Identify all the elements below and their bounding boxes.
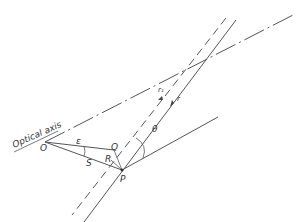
label-R: R [105,154,111,164]
epsilon-arc [84,146,85,156]
label-O: O [40,143,47,153]
label-r: r [177,95,181,103]
optics-diagram: Optical axis O ε Q S R P θ r r₁ [0,0,304,222]
label-Q: Q [111,142,118,152]
ray-r-line [84,20,236,222]
ray-r1-dashed-line [72,18,226,215]
point-P [121,169,124,172]
label-r1: r₁ [158,86,164,94]
label-P: P [120,174,126,184]
optical-axis-label: Optical axis [11,119,63,150]
label-S: S [86,158,92,168]
arrow-r1-icon [158,96,163,100]
surface-line [122,117,218,170]
label-theta: θ [152,124,158,134]
label-epsilon: ε [76,136,81,146]
arrow-r-icon [170,100,174,107]
optical-axis-line [45,14,295,142]
